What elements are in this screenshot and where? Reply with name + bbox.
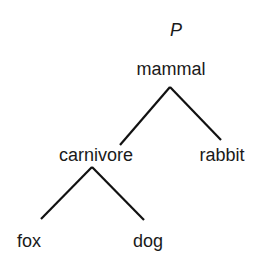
node-fox: fox bbox=[17, 231, 41, 251]
node-rabbit: rabbit bbox=[199, 145, 244, 165]
edge-carnivore-dog bbox=[92, 167, 144, 220]
node-mammal: mammal bbox=[136, 59, 205, 79]
tree-nodes: mammal carnivore rabbit fox dog bbox=[17, 59, 245, 251]
tree-title: P bbox=[170, 20, 182, 40]
edge-carnivore-fox bbox=[41, 167, 92, 219]
tree-diagram: P mammal carnivore rabbit fox dog bbox=[0, 0, 261, 267]
node-carnivore: carnivore bbox=[59, 145, 133, 165]
edge-mammal-carnivore bbox=[120, 87, 170, 145]
edge-mammal-rabbit bbox=[170, 87, 221, 140]
node-dog: dog bbox=[133, 231, 163, 251]
